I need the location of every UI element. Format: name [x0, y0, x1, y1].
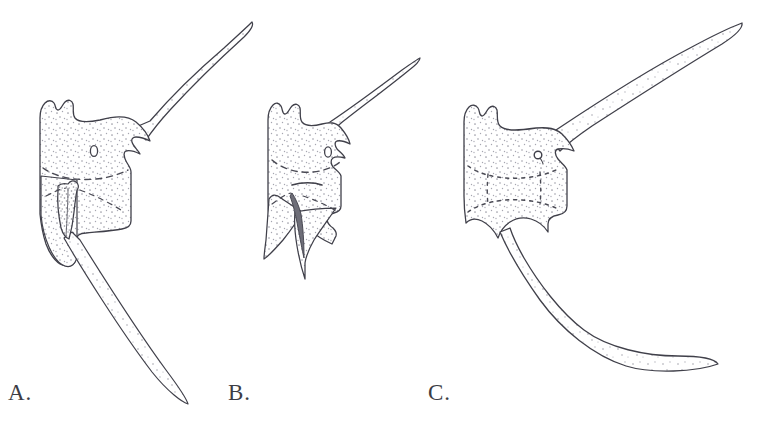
panel-label-a: A. [8, 381, 32, 404]
specimen-a-pore [90, 146, 97, 157]
specimen-c-apical-horn [548, 23, 742, 151]
specimen-c-antapical-horn [500, 228, 718, 371]
specimen-a [40, 22, 253, 404]
illustration-plate: A. B. C. [0, 0, 765, 430]
panel-label-c: C. [428, 381, 451, 404]
panel-label-b: B. [228, 381, 251, 404]
specimen-figures [0, 0, 765, 430]
specimen-c-body [464, 105, 574, 238]
specimen-c-pore [534, 151, 542, 159]
specimen-a-apical-horn [136, 22, 253, 140]
specimen-b-pore [325, 147, 332, 157]
specimen-a-antapical-horn [64, 232, 188, 404]
specimen-b [264, 58, 420, 279]
specimen-c [464, 23, 742, 371]
